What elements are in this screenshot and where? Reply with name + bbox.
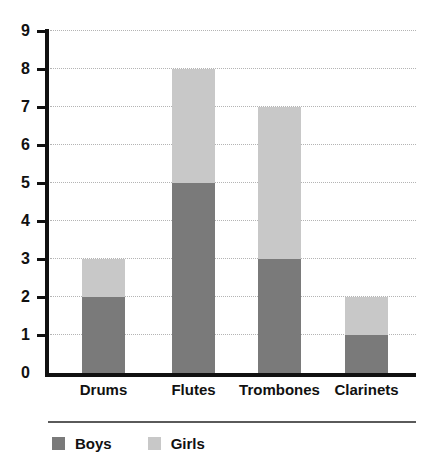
bar-segment-boys-trombones[interactable] [258,259,301,373]
y-tick-label-3: 3 [0,251,30,267]
gridline-5 [50,182,416,183]
x-tick-label-clarinets: Clarinets [307,382,427,397]
legend-swatch-boys [52,437,65,450]
y-tick-label-7: 7 [0,99,30,115]
bar-segment-girls-flutes[interactable] [172,69,215,183]
y-tick-label-8: 8 [0,61,30,77]
y-tick-5 [37,182,46,185]
legend-item-boys[interactable]: Boys [52,436,112,451]
bar-segment-girls-clarinets[interactable] [345,297,388,335]
bar-segment-boys-drums[interactable] [82,297,125,373]
y-tick-label-4: 4 [0,213,30,229]
gridline-8 [50,68,416,69]
y-tick-6 [37,144,46,147]
bar-group-clarinets[interactable] [345,297,388,373]
y-tick-8 [37,68,46,71]
stacked-bar-chart: 0123456789 DrumsFlutesTrombonesClarinets… [0,0,441,475]
y-tick-3 [37,258,46,261]
bar-segment-girls-drums[interactable] [82,259,125,297]
y-tick-1 [37,334,46,337]
y-tick-4 [37,220,46,223]
bar-group-trombones[interactable] [258,107,301,373]
chart-legend: BoysGirls [0,414,441,475]
y-tick-label-1: 1 [0,327,30,343]
legend-item-girls[interactable]: Girls [148,436,205,451]
bar-stack [258,107,301,373]
gridline-6 [50,144,416,145]
legend-divider [48,421,416,423]
y-tick-9 [37,30,46,33]
bar-group-flutes[interactable] [172,69,215,373]
bar-group-drums[interactable] [82,259,125,373]
bar-segment-boys-clarinets[interactable] [345,335,388,373]
bar-stack [82,259,125,373]
legend-label-girls: Girls [171,436,205,451]
y-axis-line [45,29,49,377]
bar-stack [172,69,215,373]
y-tick-label-0: 0 [0,365,30,381]
plot-area: 0123456789 DrumsFlutesTrombonesClarinets [0,0,441,400]
gridline-7 [50,106,416,107]
gridline-9 [50,30,416,31]
gridline-4 [50,220,416,221]
bar-segment-girls-trombones[interactable] [258,107,301,259]
legend-label-boys: Boys [75,436,112,451]
y-tick-7 [37,106,46,109]
bar-stack [345,297,388,373]
y-tick-label-5: 5 [0,175,30,191]
legend-swatch-girls [148,437,161,450]
y-tick-2 [37,296,46,299]
y-tick-label-9: 9 [0,23,30,39]
x-axis-line [45,373,416,377]
legend-items: BoysGirls [52,436,205,451]
bar-segment-boys-flutes[interactable] [172,183,215,373]
y-tick-label-6: 6 [0,137,30,153]
y-tick-label-2: 2 [0,289,30,305]
